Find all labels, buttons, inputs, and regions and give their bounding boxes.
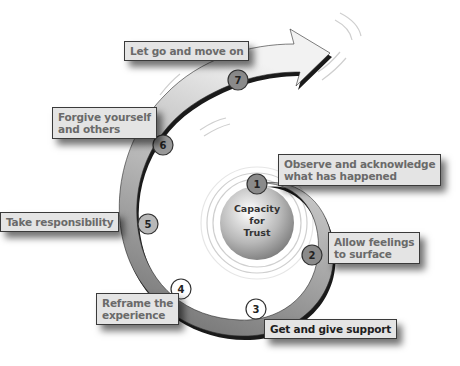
step-circle-1: 1 (247, 174, 267, 194)
svg-text:2: 2 (309, 250, 316, 261)
step-label-1: Observe and acknowledge what has happene… (278, 154, 441, 186)
step-label-7: Let go and move on (124, 41, 249, 61)
step-label-5: Take responsibility (0, 212, 119, 232)
step-circle-3: 3 (246, 299, 266, 319)
center-line-3: Trust (243, 227, 271, 238)
step-label-6: Forgive yourself and others (52, 107, 157, 139)
svg-text:1: 1 (254, 179, 261, 190)
step-label-2: Allow feelings to surface (328, 232, 420, 264)
step-circle-5: 5 (138, 214, 158, 234)
capacity-for-trust-sphere: Capacity for Trust (220, 186, 294, 260)
step-label-3: Get and give support (264, 319, 397, 339)
center-line-1: Capacity (234, 203, 281, 214)
step-circle-7: 7 (228, 70, 248, 90)
svg-text:7: 7 (235, 75, 242, 86)
svg-text:3: 3 (253, 304, 260, 315)
svg-text:6: 6 (160, 140, 167, 151)
center-line-2: for (249, 215, 265, 226)
step-label-4: Reframe the experience (96, 293, 179, 325)
step-circle-2: 2 (302, 245, 322, 265)
svg-text:5: 5 (145, 219, 152, 230)
